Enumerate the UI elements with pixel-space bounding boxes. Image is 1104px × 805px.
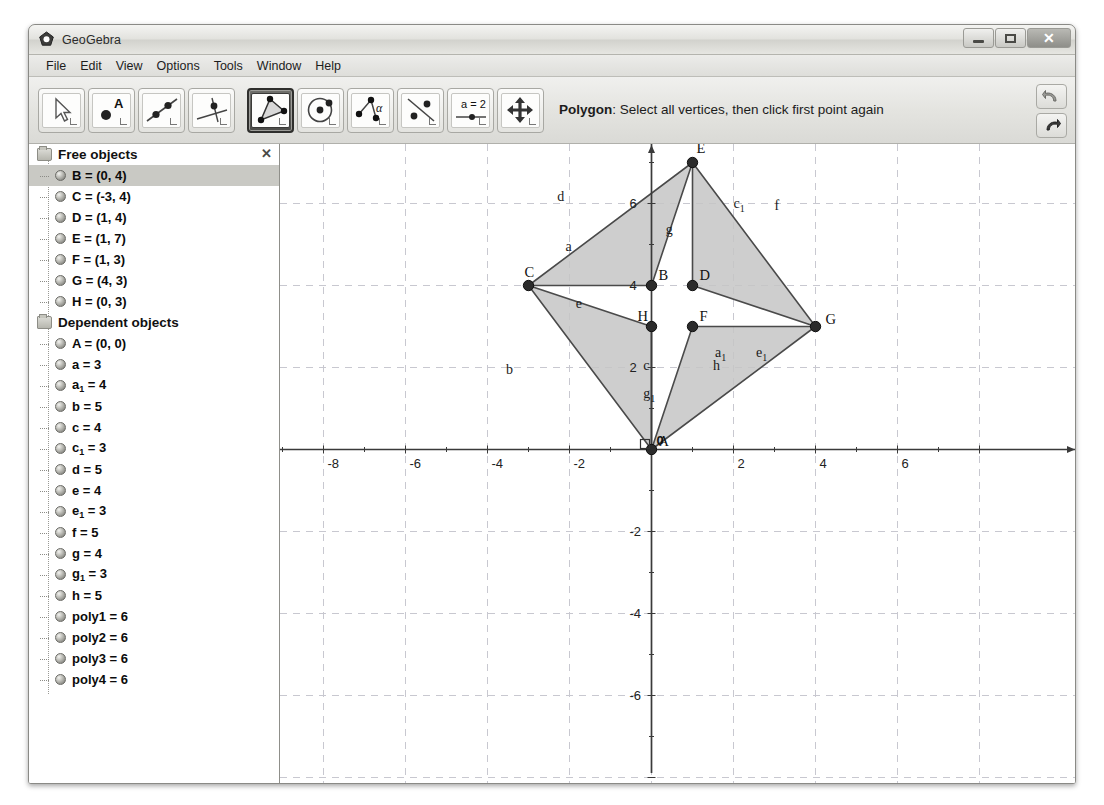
object-item[interactable]: g = 4 [29,543,279,564]
object-item[interactable]: B = (0, 4) [29,165,279,186]
point-tool[interactable]: A [88,88,135,133]
menu-item-options[interactable]: Options [150,57,207,75]
close-button[interactable]: ✕ [1027,28,1071,48]
point-B[interactable] [646,280,656,290]
menu-item-edit[interactable]: Edit [73,57,109,75]
move-tool[interactable] [38,88,85,133]
object-item[interactable]: b = 5 [29,396,279,417]
coordinate-plane[interactable]: -8-6-4-2246642-2-4-60aa1bcc1dee1fgg1hABC… [280,144,1075,783]
object-visibility-toggle-icon[interactable] [55,296,66,307]
segment-label-b: b [506,362,513,377]
tool-dropdown-arrow-icon[interactable] [329,118,336,125]
object-visibility-toggle-icon[interactable] [55,674,66,685]
object-item[interactable]: F = (1, 3) [29,249,279,270]
polygon-tool[interactable] [247,88,294,133]
object-item[interactable]: c1 = 3 [29,438,279,459]
object-item[interactable]: C = (-3, 4) [29,186,279,207]
redo-arrow-icon[interactable] [1036,113,1067,138]
object-visibility-toggle-icon[interactable] [55,233,66,244]
point-G[interactable] [810,321,820,331]
object-item[interactable]: d = 5 [29,459,279,480]
object-value: = 3 [84,440,106,455]
angle-tool[interactable]: α [347,88,394,133]
object-visibility-toggle-icon[interactable] [55,401,66,412]
close-panel-icon[interactable]: ✕ [261,147,272,160]
object-item[interactable]: D = (1, 4) [29,207,279,228]
tool-dropdown-arrow-icon[interactable] [529,118,536,125]
point-D[interactable] [687,280,697,290]
point-A[interactable] [646,444,656,454]
object-visibility-toggle-icon[interactable] [55,212,66,223]
minimize-button[interactable] [963,28,994,48]
tool-dropdown-arrow-icon[interactable] [120,118,127,125]
object-visibility-toggle-icon[interactable] [55,611,66,622]
object-group-free[interactable]: Free objects [29,144,279,165]
menu-item-tools[interactable]: Tools [207,57,250,75]
svg-text:α: α [376,101,383,115]
object-visibility-toggle-icon[interactable] [55,590,66,601]
object-visibility-toggle-icon[interactable] [55,506,66,517]
object-visibility-toggle-icon[interactable] [55,548,66,559]
tool-dropdown-arrow-icon[interactable] [220,118,227,125]
perpendicular-line-tool[interactable] [188,88,235,133]
object-group-dependent[interactable]: Dependent objects [29,312,279,333]
object-visibility-toggle-icon[interactable] [55,380,66,391]
tool-help-text: Polygon: Select all vertices, then click… [559,100,889,119]
tool-dropdown-arrow-icon[interactable] [170,118,177,125]
object-visibility-toggle-icon[interactable] [55,275,66,286]
object-item[interactable]: poly1 = 6 [29,606,279,627]
menu-item-view[interactable]: View [109,57,150,75]
object-visibility-toggle-icon[interactable] [55,254,66,265]
object-item[interactable]: g1 = 3 [29,564,279,585]
object-visibility-toggle-icon[interactable] [55,653,66,664]
segment-label-subscript: 1 [650,393,655,404]
point-C[interactable] [523,280,533,290]
object-item[interactable]: H = (0, 3) [29,291,279,312]
object-item[interactable]: e1 = 3 [29,501,279,522]
object-item[interactable]: c = 4 [29,417,279,438]
circle-tool[interactable] [297,88,344,133]
object-visibility-toggle-icon[interactable] [55,485,66,496]
tool-dropdown-arrow-icon[interactable] [379,118,386,125]
object-visibility-toggle-icon[interactable] [55,191,66,202]
object-item[interactable]: E = (1, 7) [29,228,279,249]
object-visibility-toggle-icon[interactable] [55,569,66,580]
point-label-A: A [659,433,670,449]
menu-item-window[interactable]: Window [250,57,308,75]
point-E[interactable] [687,157,697,167]
object-item[interactable]: G = (4, 3) [29,270,279,291]
line-tool[interactable] [138,88,185,133]
tool-dropdown-arrow-icon[interactable] [279,118,286,125]
maximize-button[interactable] [995,28,1026,48]
tool-dropdown-arrow-icon[interactable] [479,118,486,125]
object-visibility-toggle-icon[interactable] [55,170,66,181]
tool-dropdown-arrow-icon[interactable] [429,118,436,125]
object-label: a1 = 4 [72,377,106,394]
graphics-view[interactable]: -8-6-4-2246642-2-4-60aa1bcc1dee1fgg1hABC… [280,144,1075,783]
object-visibility-toggle-icon[interactable] [55,464,66,475]
object-visibility-toggle-icon[interactable] [55,443,66,454]
object-item[interactable]: h = 5 [29,585,279,606]
object-visibility-toggle-icon[interactable] [55,527,66,538]
object-item[interactable]: a = 3 [29,354,279,375]
object-visibility-toggle-icon[interactable] [55,422,66,433]
object-item[interactable]: e = 4 [29,480,279,501]
object-item[interactable]: f = 5 [29,522,279,543]
reflect-tool[interactable] [397,88,444,133]
object-visibility-toggle-icon[interactable] [55,338,66,349]
object-visibility-toggle-icon[interactable] [55,359,66,370]
tool-dropdown-arrow-icon[interactable] [70,118,77,125]
menu-item-file[interactable]: File [39,57,73,75]
undo-arrow-icon[interactable] [1036,84,1067,109]
object-visibility-toggle-icon[interactable] [55,632,66,643]
object-item[interactable]: poly2 = 6 [29,627,279,648]
move-graphics-view-tool[interactable] [497,88,544,133]
tool-button-group: Aαa = 2 [38,88,547,133]
slider-tool[interactable]: a = 2 [447,88,494,133]
object-item[interactable]: poly3 = 6 [29,648,279,669]
object-item[interactable]: A = (0, 0) [29,333,279,354]
menu-item-help[interactable]: Help [308,57,348,75]
point-F[interactable] [687,321,697,331]
object-item[interactable]: poly4 = 6 [29,669,279,690]
object-item[interactable]: a1 = 4 [29,375,279,396]
